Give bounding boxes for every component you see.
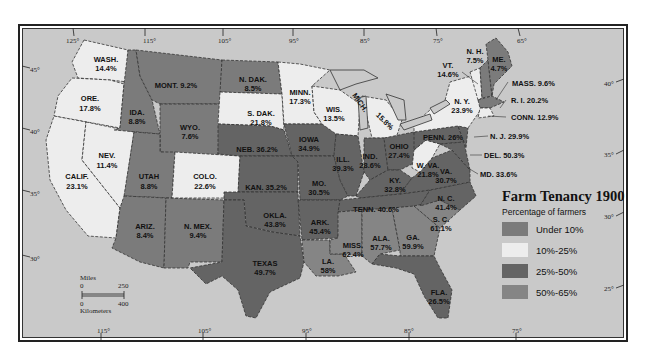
label-nc: N. C. [437, 194, 454, 203]
legend-label: 10%-25% [536, 245, 577, 256]
label-ariz: ARIZ. [135, 222, 155, 231]
label-vt: VT. [443, 61, 454, 70]
legend-title: Farm Tenancy 1900 [502, 188, 622, 205]
label-la: LA. [322, 257, 334, 266]
label-conn: CONN. 12.9% [511, 113, 559, 122]
lon-tick-top: 95° [289, 37, 299, 45]
label-nh: N. H. [466, 47, 483, 56]
label-calif: CALIF. [65, 172, 88, 181]
value-ariz: 8.4% [136, 231, 153, 240]
value-ndak: 8.5% [244, 84, 261, 93]
legend-swatch-10-25 [502, 243, 528, 257]
legend-swatch-under-10 [502, 222, 528, 236]
value-iowa: 34.9% [298, 144, 320, 153]
legend-label: Under 10% [536, 224, 584, 235]
legend-item: Under 10% [502, 220, 622, 238]
lon-tick-bottom: 105° [198, 327, 212, 335]
value-ark: 45.4% [309, 227, 331, 236]
label-neb: NEB. 36.2% [236, 145, 278, 154]
lon-tick-top: 85° [360, 37, 370, 45]
label-okla: OKLA. [263, 211, 286, 220]
lon-tick-bottom: 75° [512, 327, 522, 335]
label-ri: R. I. 20.2% [511, 96, 548, 105]
value-mo: 30.5% [308, 188, 330, 197]
label-fla: FLA. [431, 288, 448, 297]
svg-text:400: 400 [118, 300, 129, 308]
label-ark: ARK. [311, 218, 329, 227]
label-texas: TEXAS [252, 259, 277, 268]
legend-subtitle: Percentage of farmers [502, 207, 622, 217]
label-kan: KAN. 35.2% [245, 183, 287, 192]
lon-tick-top: 105° [218, 37, 232, 45]
value-ga: 59.9% [402, 242, 424, 251]
legend-item: 50%-65% [502, 283, 622, 301]
label-sdak: S. DAK. [247, 109, 275, 118]
label-ind: IND. [363, 152, 378, 161]
label-va: VA. [440, 167, 452, 176]
label-ny: N. Y. [454, 97, 470, 106]
label-wyo: WYO. [180, 123, 200, 132]
label-me: ME. [492, 55, 505, 64]
lon-tick-bottom: 95° [302, 327, 312, 335]
value-utah: 8.8% [140, 182, 157, 191]
value-sc: 61.1% [430, 224, 452, 233]
lat-tick-right: 35° [604, 151, 614, 159]
value-nh: 7.5% [466, 56, 483, 65]
label-ga: GA. [406, 233, 419, 242]
legend-swatch-25-50 [502, 264, 528, 278]
value-calif: 23.1% [66, 182, 88, 191]
lat-tick-left: 40° [30, 128, 40, 136]
lon-tick-top: 125° [66, 37, 80, 45]
label-minn: MINN. [289, 88, 310, 97]
label-wash: WASH. [94, 55, 119, 64]
value-okla: 43.8% [264, 220, 286, 229]
lon-tick-top: 115° [143, 37, 156, 45]
value-colo: 22.6% [194, 182, 216, 191]
label-miss: MISS. [343, 241, 363, 250]
value-la: 58% [320, 266, 335, 275]
label-ndak: N. DAK. [239, 75, 267, 84]
label-nmex: N. MEX. [184, 222, 212, 231]
label-mont: MONT. 9.2% [155, 81, 198, 90]
lon-tick-top: 75° [433, 37, 443, 45]
value-wva: 21.8% [417, 170, 439, 179]
label-ida: IDA. [130, 108, 145, 117]
legend-label: 50%-65% [536, 287, 577, 298]
lat-tick-left: 45° [30, 66, 40, 74]
svg-text:0: 0 [80, 282, 84, 290]
us-map: 125° 115° 105° 95° 85° 75° 65° 115° 105°… [0, 0, 646, 364]
value-ohio: 27.4% [388, 151, 410, 160]
value-texas: 49.7% [254, 268, 276, 277]
label-ore: ORE. [81, 94, 99, 103]
value-wyo: 7.6% [181, 132, 198, 141]
value-ill: 39.3% [332, 164, 354, 173]
label-ohio: OHIO [389, 142, 408, 151]
value-ny: 23.9% [451, 106, 473, 115]
value-wash: 14.4% [95, 64, 117, 73]
label-wva: W. VA. [417, 161, 440, 170]
value-ind: 28.6% [359, 161, 381, 170]
scale-bar: Miles 0 250 0 400 Kilometers [80, 274, 129, 315]
label-ky: KY. [389, 176, 401, 185]
lon-tick-bottom: 115° [97, 327, 110, 335]
label-nev: NEV. [99, 151, 116, 160]
value-wis: 13.5% [323, 114, 345, 123]
label-mass: MASS. 9.6% [512, 79, 555, 88]
lat-tick-left: 30° [30, 255, 40, 263]
svg-text:250: 250 [118, 282, 129, 290]
label-del: DEL. 50.3% [484, 151, 525, 160]
legend-label: 25%-50% [536, 266, 577, 277]
value-minn: 17.3% [289, 97, 311, 106]
value-nmex: 9.4% [189, 231, 206, 240]
svg-text:Miles: Miles [80, 274, 96, 282]
legend-swatch-50-65 [502, 285, 528, 299]
state-fla [372, 254, 452, 318]
label-ala: ALA. [372, 234, 390, 243]
label-md: MD. 33.6% [480, 170, 517, 179]
value-miss: 62.4% [342, 250, 364, 259]
lat-tick-right: 40° [604, 80, 614, 88]
label-ill: ILL. [336, 155, 349, 164]
svg-text:Kilometers: Kilometers [80, 307, 111, 315]
label-mo: MO. [312, 179, 326, 188]
label-colo: COLO. [193, 172, 217, 181]
